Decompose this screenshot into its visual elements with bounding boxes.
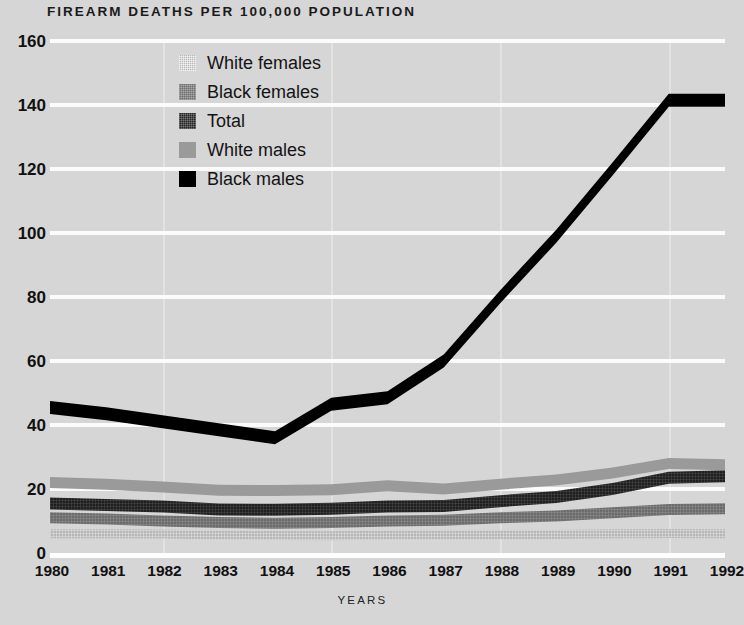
y-tick-label: 60: [2, 353, 46, 370]
y-tick-label: 20: [2, 481, 46, 498]
legend-swatch-icon: [179, 84, 196, 100]
x-tick-label: 1992: [710, 562, 744, 580]
legend-item-label: Total: [207, 112, 245, 130]
legend-item-label: Black females: [207, 83, 319, 101]
x-tick-label: 1981: [91, 562, 125, 580]
y-tick-label: 160: [2, 33, 46, 50]
legend-item-label: White females: [207, 54, 321, 72]
legend-swatch-icon: [179, 171, 196, 187]
x-tick-label: 1991: [654, 562, 688, 580]
y-tick-label: 0: [2, 545, 46, 562]
x-tick-label: 1990: [597, 562, 631, 580]
y-tick-label: 140: [2, 97, 46, 114]
x-tick-label: 1980: [35, 562, 69, 580]
legend-item-total[interactable]: Total: [179, 106, 409, 135]
legend-swatch-icon: [179, 113, 196, 129]
legend-swatch-icon: [179, 142, 196, 158]
chart-title: FIREARM DEATHS PER 100,000 POPULATION: [47, 4, 416, 19]
x-tick-label: 1989: [541, 562, 575, 580]
legend-item-label: Black males: [207, 170, 304, 188]
axis-baseline: [50, 553, 725, 558]
x-axis-label: YEARS: [0, 594, 725, 606]
legend-item-black-males[interactable]: Black males: [179, 164, 409, 193]
x-tick-label: 1984: [260, 562, 294, 580]
x-tick-label: 1988: [485, 562, 519, 580]
x-tick-label: 1986: [372, 562, 406, 580]
y-tick-label: 40: [2, 417, 46, 434]
y-tick-label: 80: [2, 289, 46, 306]
x-tick-label: 1983: [204, 562, 238, 580]
legend-item-white-males[interactable]: White males: [179, 135, 409, 164]
chart-legend: White femalesBlack femalesTotalWhite mal…: [179, 48, 409, 193]
y-tick-label: 120: [2, 161, 46, 178]
legend-item-white-females[interactable]: White females: [179, 48, 409, 77]
series-band-white-females: [50, 529, 725, 540]
y-tick-label: 100: [2, 225, 46, 242]
x-tick-label: 1982: [147, 562, 181, 580]
legend-item-black-females[interactable]: Black females: [179, 77, 409, 106]
x-tick-label: 1987: [429, 562, 463, 580]
legend-swatch-icon: [179, 55, 196, 71]
y-axis: 020406080100120140160: [0, 0, 46, 625]
x-tick-label: 1985: [316, 562, 350, 580]
x-axis: 1980198119821983198419851986198719881989…: [50, 562, 725, 588]
legend-item-label: White males: [207, 141, 306, 159]
